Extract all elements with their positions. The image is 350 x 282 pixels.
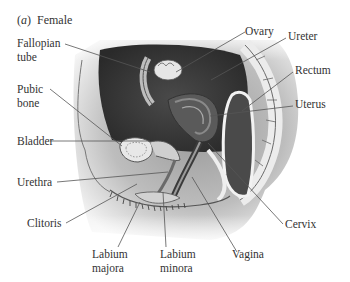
label-ureter: Ureter [288,29,317,43]
label-fallopian-tube: Fallopian tube [17,36,60,64]
label-ovary: Ovary [245,24,274,38]
panel-title: (a) Female [17,13,72,28]
label-labium-majora: Labium majora [92,247,128,275]
label-cervix: Cervix [285,217,316,231]
label-vagina: Vagina [232,247,264,261]
label-urethra: Urethra [17,175,52,189]
label-labium-minora: Labium minora [160,247,196,275]
label-clitoris: Clitoris [27,216,62,230]
panel-title-text: Female [37,13,72,27]
label-pubic-bone: Pubic bone [17,82,43,110]
rectum [223,92,253,196]
panel-letter: a [21,13,27,27]
label-uterus: Uterus [295,97,326,111]
anatomy-figure: (a) Female Fallopian tube Pubic bone Bla… [0,0,350,282]
label-rectum: Rectum [295,63,331,77]
label-bladder: Bladder [17,134,53,148]
